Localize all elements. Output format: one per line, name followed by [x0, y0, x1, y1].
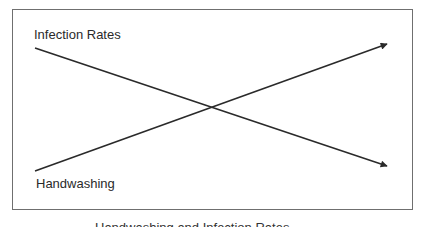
figure-caption-cropped: Handwashing and Infection Rates [95, 220, 289, 227]
handwashing-label: Handwashing [36, 176, 115, 191]
handwashing-line [35, 44, 387, 171]
infection-rates-label: Infection Rates [34, 27, 121, 42]
